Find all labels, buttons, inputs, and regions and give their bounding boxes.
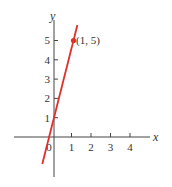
chart: 1 2 3 4 5 0 1 2 3 4 x y (1, 5) [0,0,172,187]
x-axis-label: x [152,130,159,144]
x-ticks [72,133,131,137]
y-tick-3: 3 [45,73,51,85]
y-tick-2: 2 [45,92,51,104]
y-tick-labels: 1 2 3 4 5 [45,34,51,123]
y-tick-5: 5 [45,34,51,46]
point-label: (1, 5) [76,34,100,47]
x-tick-labels: 0 1 2 3 4 [46,141,133,153]
x-tick-1: 1 [69,141,75,153]
x-tick-2: 2 [88,141,94,153]
x-tick-4: 4 [127,141,133,153]
y-axis-label: y [49,9,56,23]
y-tick-1: 1 [45,112,51,124]
x-tick-3: 3 [108,141,114,153]
y-tick-4: 4 [45,54,51,66]
